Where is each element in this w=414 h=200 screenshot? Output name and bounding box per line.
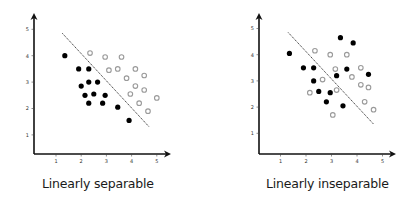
data-point-gray — [345, 52, 350, 57]
y-tick-label: 1 — [26, 132, 29, 138]
data-point-gray — [133, 67, 138, 72]
data-point-gray — [146, 109, 151, 114]
y-tick-label: 2 — [251, 104, 254, 110]
x-tick-label: 3 — [105, 158, 108, 164]
data-point-gray — [328, 52, 333, 57]
data-point-gray — [371, 107, 376, 112]
data-point-gray — [142, 88, 147, 93]
decision-boundary-line — [62, 33, 149, 127]
data-point-black — [328, 90, 333, 95]
y-tick-label: 1 — [251, 130, 254, 136]
data-point-black — [340, 103, 345, 108]
y-tick-label: 4 — [26, 53, 29, 59]
x-tick-label: 1 — [279, 158, 282, 164]
data-point-black — [126, 118, 131, 123]
x-tick-label: 2 — [304, 158, 307, 164]
x-tick-label: 4 — [355, 158, 358, 164]
data-point-black — [324, 99, 329, 104]
data-point-gray — [103, 55, 108, 60]
x-tick-label: 4 — [130, 158, 133, 164]
figure-canvas: 12345123451234512345 — [0, 0, 414, 200]
decision-boundary-line — [288, 32, 373, 124]
right-scatter-chart: 1234512345 — [251, 13, 396, 164]
data-point-black — [86, 80, 91, 85]
x-tick-label: 5 — [155, 158, 158, 164]
data-point-gray — [359, 83, 364, 88]
data-point-gray — [313, 48, 318, 53]
left-chart-title: Linearly separable — [42, 176, 154, 191]
data-point-black — [86, 66, 91, 71]
data-point-gray — [155, 96, 160, 101]
data-point-black — [338, 35, 343, 40]
data-point-gray — [366, 85, 371, 90]
data-point-gray — [88, 51, 93, 56]
data-point-black — [103, 93, 108, 98]
data-point-gray — [330, 113, 335, 118]
data-point-black — [91, 91, 96, 96]
x-tick-label: 3 — [330, 158, 333, 164]
y-tick-label: 5 — [26, 26, 29, 32]
data-point-black — [301, 65, 306, 70]
data-point-black — [351, 40, 356, 45]
data-point-black — [316, 89, 321, 94]
data-point-black — [287, 51, 292, 56]
data-point-gray — [350, 75, 355, 80]
data-point-gray — [133, 84, 138, 89]
data-point-gray — [115, 67, 120, 72]
x-tick-label: 1 — [54, 158, 57, 164]
data-point-gray — [107, 68, 112, 73]
data-point-black — [86, 101, 91, 106]
data-point-black — [95, 80, 100, 85]
data-point-black — [115, 105, 120, 110]
data-point-black — [366, 72, 371, 77]
x-tick-label: 2 — [80, 158, 83, 164]
data-point-gray — [128, 92, 133, 97]
data-point-black — [62, 53, 67, 58]
x-tick-label: 5 — [381, 158, 384, 164]
data-point-black — [311, 78, 316, 83]
data-point-black — [79, 83, 84, 88]
data-point-gray — [137, 101, 142, 106]
y-tick-label: 4 — [251, 52, 254, 58]
data-point-gray — [320, 77, 325, 82]
data-point-black — [344, 67, 349, 72]
data-point-gray — [142, 73, 147, 78]
data-point-gray — [308, 90, 313, 95]
data-point-black — [100, 101, 105, 106]
data-point-black — [334, 73, 339, 78]
y-tick-label: 5 — [251, 25, 254, 31]
left-scatter-chart: 1234512345 — [26, 13, 171, 164]
data-point-gray — [124, 76, 129, 81]
y-tick-label: 3 — [251, 78, 254, 84]
right-chart-title: Linearly inseparable — [266, 176, 389, 191]
data-point-gray — [333, 67, 338, 72]
data-point-gray — [119, 55, 124, 60]
data-point-gray — [362, 100, 367, 105]
data-point-black — [76, 66, 81, 71]
y-tick-label: 2 — [26, 105, 29, 111]
data-point-gray — [359, 66, 364, 71]
data-point-black — [82, 93, 87, 98]
data-point-gray — [334, 88, 339, 93]
y-tick-label: 3 — [26, 79, 29, 85]
data-point-black — [311, 65, 316, 70]
